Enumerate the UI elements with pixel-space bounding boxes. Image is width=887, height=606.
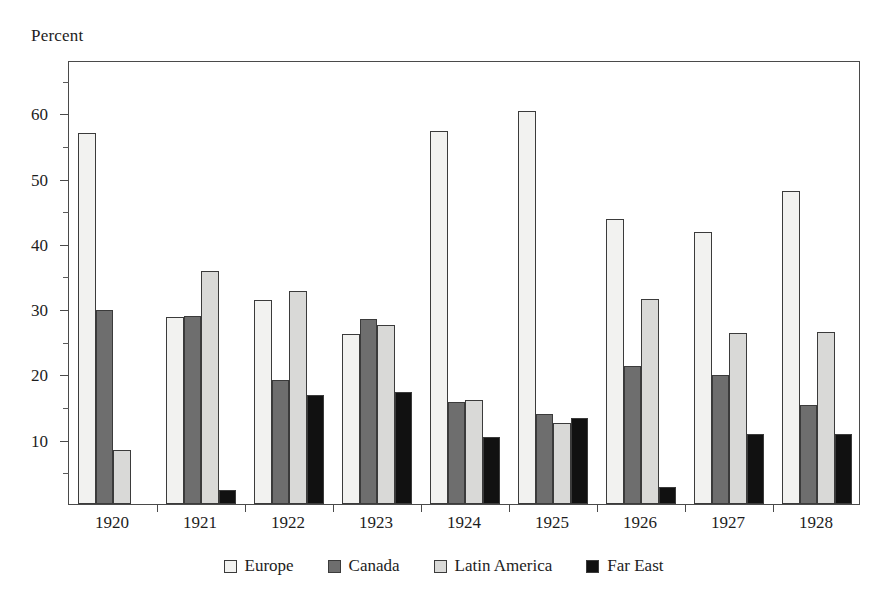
bar-canada-1927	[712, 375, 730, 504]
y-axis-minor-tick	[63, 343, 69, 344]
y-axis-tick-label: 50	[31, 171, 48, 191]
bar-canada-1928	[800, 405, 818, 504]
legend-swatch-icon	[434, 560, 447, 573]
y-axis-tick-label: 10	[31, 432, 48, 452]
y-axis-tick-label: 30	[31, 301, 48, 321]
y-axis-title: Percent	[31, 26, 83, 46]
bar-canada-1926	[624, 366, 642, 504]
legend-label: Far East	[607, 556, 663, 576]
y-axis-tick-label: 20	[31, 366, 48, 386]
legend-label: Europe	[245, 556, 294, 576]
x-axis-label-1920: 1920	[95, 513, 129, 533]
bar-latin-america-1921	[201, 271, 219, 504]
bar-far-east-1925	[571, 418, 589, 504]
bar-europe-1921	[166, 317, 184, 504]
x-axis-tick	[773, 504, 774, 512]
bar-europe-1926	[606, 219, 624, 504]
bar-europe-1925	[518, 111, 536, 504]
bar-europe-1920	[78, 133, 96, 504]
bar-latin-america-1925	[553, 423, 571, 504]
bar-canada-1924	[448, 402, 466, 505]
legend-item-europe[interactable]: Europe	[224, 556, 294, 576]
legend-swatch-icon	[328, 560, 341, 573]
bar-latin-america-1923	[377, 325, 395, 504]
bar-europe-1928	[782, 191, 800, 504]
x-axis-label-1926: 1926	[623, 513, 657, 533]
bar-latin-america-1922	[289, 291, 307, 504]
bar-canada-1922	[272, 380, 290, 504]
x-axis-label-1923: 1923	[359, 513, 393, 533]
y-axis-tick: 40	[60, 245, 69, 246]
bar-latin-america-1926	[641, 299, 659, 504]
y-axis-minor-tick	[63, 212, 69, 213]
bar-latin-america-1920	[113, 450, 131, 504]
y-axis-minor-tick	[63, 147, 69, 148]
x-axis-label-1927: 1927	[711, 513, 745, 533]
y-axis-tick: 10	[60, 441, 69, 442]
y-axis-tick: 60	[60, 114, 69, 115]
x-axis-tick	[597, 504, 598, 512]
bar-latin-america-1927	[729, 333, 747, 504]
x-axis-label-1928: 1928	[799, 513, 833, 533]
bar-canada-1923	[360, 319, 378, 504]
y-axis-minor-tick	[63, 473, 69, 474]
y-axis-minor-tick	[63, 408, 69, 409]
y-axis-minor-tick	[63, 277, 69, 278]
legend-swatch-icon	[586, 560, 599, 573]
bar-far-east-1928	[835, 434, 853, 504]
x-axis-label-1925: 1925	[535, 513, 569, 533]
y-axis-minor-tick	[63, 82, 69, 83]
x-axis-tick	[333, 504, 334, 512]
bar-far-east-1922	[307, 395, 325, 504]
y-axis-tick-label: 40	[31, 236, 48, 256]
bar-europe-1923	[342, 334, 360, 504]
x-axis-tick	[421, 504, 422, 512]
y-axis-tick-label: 60	[31, 105, 48, 125]
bar-latin-america-1928	[817, 332, 835, 504]
bar-far-east-1921	[219, 490, 237, 504]
bar-canada-1920	[96, 310, 114, 504]
x-axis-label-1921: 1921	[183, 513, 217, 533]
bar-canada-1921	[184, 316, 202, 504]
chart-plot-frame: 102030405060	[68, 61, 860, 505]
x-axis-tick	[157, 504, 158, 512]
bar-far-east-1924	[483, 437, 501, 504]
bar-latin-america-1924	[465, 400, 483, 504]
bar-far-east-1923	[395, 392, 413, 504]
y-axis-tick: 30	[60, 310, 69, 311]
legend-item-far-east[interactable]: Far East	[586, 556, 663, 576]
x-axis-label-1924: 1924	[447, 513, 481, 533]
legend-swatch-icon	[224, 560, 237, 573]
chart-plot-area: 102030405060	[69, 62, 859, 504]
chart-legend: EuropeCanadaLatin AmericaFar East	[0, 556, 887, 576]
bar-far-east-1927	[747, 434, 765, 504]
legend-label: Latin America	[455, 556, 553, 576]
bar-europe-1922	[254, 300, 272, 504]
x-axis-tick	[509, 504, 510, 512]
legend-item-latin-america[interactable]: Latin America	[434, 556, 553, 576]
x-axis-tick	[245, 504, 246, 512]
bar-canada-1925	[536, 414, 554, 504]
bar-europe-1924	[430, 131, 448, 504]
bar-far-east-1926	[659, 487, 677, 504]
legend-label: Canada	[349, 556, 400, 576]
bar-europe-1927	[694, 232, 712, 504]
x-axis-tick	[685, 504, 686, 512]
legend-item-canada[interactable]: Canada	[328, 556, 400, 576]
x-axis-label-1922: 1922	[271, 513, 305, 533]
y-axis-tick: 50	[60, 180, 69, 181]
y-axis-tick: 20	[60, 375, 69, 376]
